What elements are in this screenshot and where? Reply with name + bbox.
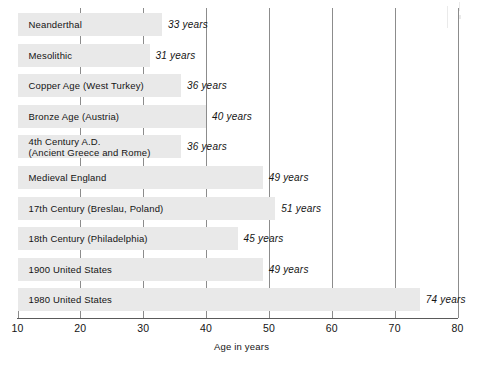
axis-line bbox=[17, 318, 458, 319]
bar-row: 4th Century A.D.(Ancient Greece and Rome… bbox=[0, 135, 483, 158]
tick-mark-40 bbox=[206, 311, 207, 318]
bar-category-label: Neanderthal bbox=[18, 13, 82, 36]
bar-row: Mesolithic31 years bbox=[0, 44, 483, 67]
bar-category-label: 1900 United States bbox=[18, 258, 113, 281]
tick-label-80: 80 bbox=[451, 322, 463, 334]
tick-label-50: 50 bbox=[263, 322, 275, 334]
bar-category-label-line1: 18th Century (Philadelphia) bbox=[29, 233, 148, 244]
tick-mark-10 bbox=[18, 311, 19, 318]
tick-mark-30 bbox=[143, 311, 144, 318]
bar-value-label: 49 years bbox=[269, 166, 309, 189]
bar-category-label: 1980 United States bbox=[18, 288, 113, 311]
axis-title: Age in years bbox=[0, 341, 483, 352]
bar-category-label: Mesolithic bbox=[18, 44, 73, 67]
bar-category-label-line1: Mesolithic bbox=[29, 50, 73, 61]
bar-value-label: 31 years bbox=[156, 44, 196, 67]
bar-row: Copper Age (West Turkey)36 years bbox=[0, 74, 483, 97]
bar-category-label-line1: 1900 United States bbox=[29, 264, 113, 275]
bar-category-label-line1: Medieval England bbox=[29, 172, 107, 183]
bar-category-label: Medieval England bbox=[18, 166, 107, 189]
bar-category-label-line1: 4th Century A.D. bbox=[29, 136, 151, 147]
bar-category-label: 4th Century A.D.(Ancient Greece and Rome… bbox=[18, 135, 151, 158]
bar-category-label-line2: (Ancient Greece and Rome) bbox=[29, 147, 151, 158]
bar-row: 1980 United States74 years bbox=[0, 288, 483, 311]
tick-mark-70 bbox=[395, 311, 396, 318]
bar-row: Neanderthal33 years bbox=[0, 13, 483, 36]
bar-value-label: 36 years bbox=[187, 74, 227, 97]
bar-row: 17th Century (Breslau, Poland)51 years bbox=[0, 197, 483, 220]
bar-row: Bronze Age (Austria)40 years bbox=[0, 105, 483, 128]
tick-mark-50 bbox=[269, 311, 270, 318]
tick-label-20: 20 bbox=[74, 322, 86, 334]
bar-category-label: 18th Century (Philadelphia) bbox=[18, 227, 148, 250]
tick-mark-60 bbox=[332, 311, 333, 318]
bar-row: Medieval England49 years bbox=[0, 166, 483, 189]
bar-category-label-line1: 1980 United States bbox=[29, 294, 113, 305]
tick-mark-20 bbox=[80, 311, 81, 318]
x-axis: 1020304050607080 Age in years bbox=[0, 318, 483, 371]
plot-area: Neanderthal33 yearsMesolithic31 yearsCop… bbox=[0, 0, 483, 318]
bar-category-label-line1: Neanderthal bbox=[29, 19, 82, 30]
bar-category-label-line1: Bronze Age (Austria) bbox=[29, 111, 120, 122]
bar-value-label: 51 years bbox=[281, 197, 321, 220]
tick-label-40: 40 bbox=[200, 322, 212, 334]
bar-category-label: Bronze Age (Austria) bbox=[18, 105, 120, 128]
tick-label-60: 60 bbox=[326, 322, 338, 334]
bar-category-label: Copper Age (West Turkey) bbox=[18, 74, 144, 97]
tick-label-10: 10 bbox=[11, 322, 23, 334]
bar-value-label: 45 years bbox=[244, 227, 284, 250]
bar-category-label-line1: Copper Age (West Turkey) bbox=[29, 80, 144, 91]
bar-category-label: 17th Century (Breslau, Poland) bbox=[18, 197, 164, 220]
bar-category-label-line1: 17th Century (Breslau, Poland) bbox=[29, 203, 164, 214]
bar-row: 18th Century (Philadelphia)45 years bbox=[0, 227, 483, 250]
tick-mark-80 bbox=[458, 311, 459, 318]
tick-label-70: 70 bbox=[389, 322, 401, 334]
bar-value-label: 33 years bbox=[168, 13, 208, 36]
bar-value-label: 40 years bbox=[212, 105, 252, 128]
bar-value-label: 36 years bbox=[187, 135, 227, 158]
tick-label-30: 30 bbox=[137, 322, 149, 334]
bar-row: 1900 United States49 years bbox=[0, 258, 483, 281]
life-expectancy-bar-chart: Neanderthal33 yearsMesolithic31 yearsCop… bbox=[0, 0, 483, 371]
bar-value-label: 74 years bbox=[426, 288, 466, 311]
bar-value-label: 49 years bbox=[269, 258, 309, 281]
